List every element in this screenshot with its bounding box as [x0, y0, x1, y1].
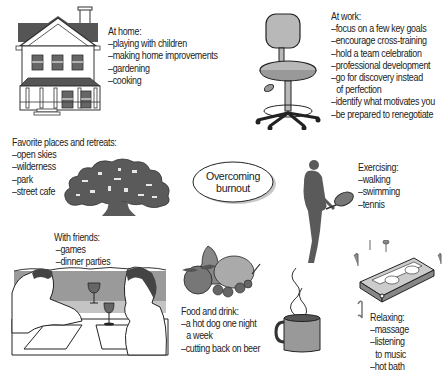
- list-item: of perfection: [331, 84, 435, 96]
- list-item: –hold a team celebration: [331, 48, 435, 60]
- list-item: –go for discovery instead: [331, 72, 435, 84]
- relaxing-section: Relaxing: –massage –listening to music –…: [370, 312, 409, 373]
- list-item: to music: [370, 349, 409, 361]
- home-list: –playing with children –making home impr…: [108, 38, 218, 87]
- friends-heading: With friends:: [54, 232, 110, 244]
- exercising-section: Exercising: –walking –swimming –tennis: [358, 162, 400, 211]
- office-chair-icon: [252, 12, 322, 130]
- house-illustration: [14, 6, 102, 116]
- list-item: –listening: [370, 336, 409, 348]
- list-item: –encourage cross-training: [331, 35, 435, 47]
- list-item: –swimming: [358, 186, 400, 198]
- list-item: –making home improvements: [108, 50, 218, 62]
- list-item: a week: [181, 330, 260, 342]
- work-heading: At work:: [331, 11, 435, 23]
- fruit-icon: [178, 244, 264, 300]
- dinner-illustration: [10, 263, 170, 361]
- list-item: –walking: [358, 174, 400, 186]
- list-item: –cooking: [108, 75, 218, 87]
- list-item: –identify what motivates you: [331, 96, 435, 108]
- home-section: At home: –playing with children –making …: [108, 26, 218, 87]
- list-item: –professional development: [331, 60, 435, 72]
- central-topic: Overcomingburnout: [192, 161, 274, 203]
- work-section: At work: –focus on a few key goals –enco…: [331, 11, 435, 121]
- coffee-mug-illustration: [274, 266, 324, 354]
- list-item: –cutting back on beer: [181, 343, 260, 355]
- tree-icon: [62, 156, 174, 218]
- tree-illustration: [62, 156, 174, 218]
- list-item: –tennis: [358, 199, 400, 211]
- list-item: –focus on a few key goals: [331, 23, 435, 35]
- list-item: –gardening: [108, 63, 218, 75]
- coffee-mug-icon: [274, 266, 324, 354]
- work-list: –focus on a few key goals –encourage cro…: [331, 23, 435, 121]
- home-heading: At home:: [108, 26, 218, 38]
- house-icon: [14, 6, 102, 116]
- places-heading: Favorite places and retreats:: [12, 137, 117, 149]
- central-topic-label: Overcomingburnout: [192, 161, 274, 203]
- list-item: –games: [56, 244, 111, 256]
- relaxing-list: –massage –listening to music –hot bath: [370, 324, 409, 373]
- dinner-couple-icon: [10, 263, 170, 361]
- list-item: –hot bath: [370, 361, 409, 373]
- chair-illustration: [252, 12, 322, 130]
- food-heading: Food and drink:: [181, 306, 260, 318]
- list-item: –be prepared to renegotiate: [331, 109, 435, 121]
- fruit-illustration: [178, 244, 264, 300]
- list-item: –massage: [370, 324, 409, 336]
- food-section: Food and drink: –a hot dog one night a w…: [181, 306, 260, 355]
- food-list: –a hot dog one night a week –cutting bac…: [181, 318, 260, 355]
- exercising-list: –walking –swimming –tennis: [358, 174, 400, 211]
- exercising-heading: Exercising:: [358, 162, 400, 174]
- list-item: –playing with children: [108, 38, 218, 50]
- relaxing-heading: Relaxing:: [370, 312, 409, 324]
- list-item: –a hot dog one night: [181, 318, 260, 330]
